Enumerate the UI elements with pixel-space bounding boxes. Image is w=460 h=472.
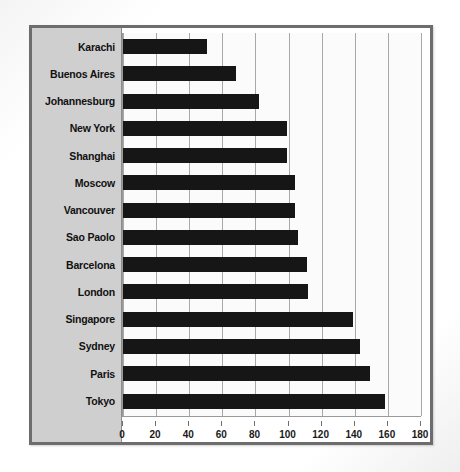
category-label-shanghai: Shanghai <box>31 142 115 169</box>
category-label-singapore: Singapore <box>31 306 115 333</box>
gridline-180 <box>421 33 422 416</box>
x-tick-label-0: 0 <box>119 429 125 440</box>
bar-row <box>123 251 421 278</box>
x-tick-mark-40 <box>188 421 189 426</box>
category-label-london: London <box>31 278 115 305</box>
bar-row <box>123 169 421 196</box>
bar-barcelona <box>123 257 307 272</box>
category-label-tokyo: Tokyo <box>31 387 115 414</box>
bar-karachi <box>123 39 207 54</box>
x-axis: 020406080100120140160180 <box>122 421 430 447</box>
category-label-karachi: Karachi <box>31 33 115 60</box>
x-tick-label-100: 100 <box>279 429 296 440</box>
x-tick-label-160: 160 <box>379 429 396 440</box>
category-label-new-york: New York <box>31 115 115 142</box>
bar-paris <box>123 366 370 381</box>
bar-london <box>123 284 308 299</box>
x-tick-mark-180 <box>420 421 421 426</box>
x-tick-mark-20 <box>155 421 156 426</box>
bar-row <box>123 142 421 169</box>
bar-vancouver <box>123 203 295 218</box>
bar-row <box>123 278 421 305</box>
bar-row <box>123 197 421 224</box>
x-tick-mark-160 <box>387 421 388 426</box>
bar-row <box>123 224 421 251</box>
bar-sydney <box>123 339 360 354</box>
category-label-buenos-aires: Buenos Aires <box>31 60 115 87</box>
bar-row <box>123 60 421 87</box>
x-tick-mark-80 <box>254 421 255 426</box>
bar-johannesburg <box>123 94 259 109</box>
x-tick-mark-60 <box>221 421 222 426</box>
category-label-paris: Paris <box>31 360 115 387</box>
bar-tokyo <box>123 394 385 409</box>
category-label-barcelona: Barcelona <box>31 251 115 278</box>
category-label-vancouver: Vancouver <box>31 197 115 224</box>
bar-new-york <box>123 121 287 136</box>
category-label-johannesburg: Johannesburg <box>31 88 115 115</box>
x-tick-label-180: 180 <box>412 429 429 440</box>
category-label-sydney: Sydney <box>31 333 115 360</box>
bar-row <box>123 333 421 360</box>
plot-area <box>122 33 421 417</box>
bar-shanghai <box>123 148 287 163</box>
bar-moscow <box>123 175 295 190</box>
x-tick-mark-140 <box>354 421 355 426</box>
x-tick-label-60: 60 <box>216 429 227 440</box>
x-tick-label-20: 20 <box>150 429 161 440</box>
bar-sao-paolo <box>123 230 298 245</box>
x-tick-label-120: 120 <box>312 429 329 440</box>
x-tick-label-140: 140 <box>345 429 362 440</box>
plot-wrapper <box>122 28 430 442</box>
x-tick-label-40: 40 <box>183 429 194 440</box>
x-tick-mark-0 <box>122 421 123 426</box>
bar-row <box>123 33 421 60</box>
bar-chart: KarachiBuenos AiresJohannesburgNew YorkS… <box>29 25 433 445</box>
x-tick-label-80: 80 <box>249 429 260 440</box>
category-label-panel: KarachiBuenos AiresJohannesburgNew YorkS… <box>32 28 122 442</box>
bar-row <box>123 360 421 387</box>
x-tick-mark-100 <box>288 421 289 426</box>
bar-singapore <box>123 312 353 327</box>
category-label-moscow: Moscow <box>31 169 115 196</box>
bar-row <box>123 387 421 414</box>
x-tick-mark-120 <box>321 421 322 426</box>
category-label-sao-paolo: Sao Paolo <box>31 224 115 251</box>
bar-buenos-aires <box>123 66 236 81</box>
bar-row <box>123 306 421 333</box>
bar-row <box>123 115 421 142</box>
bar-row <box>123 88 421 115</box>
